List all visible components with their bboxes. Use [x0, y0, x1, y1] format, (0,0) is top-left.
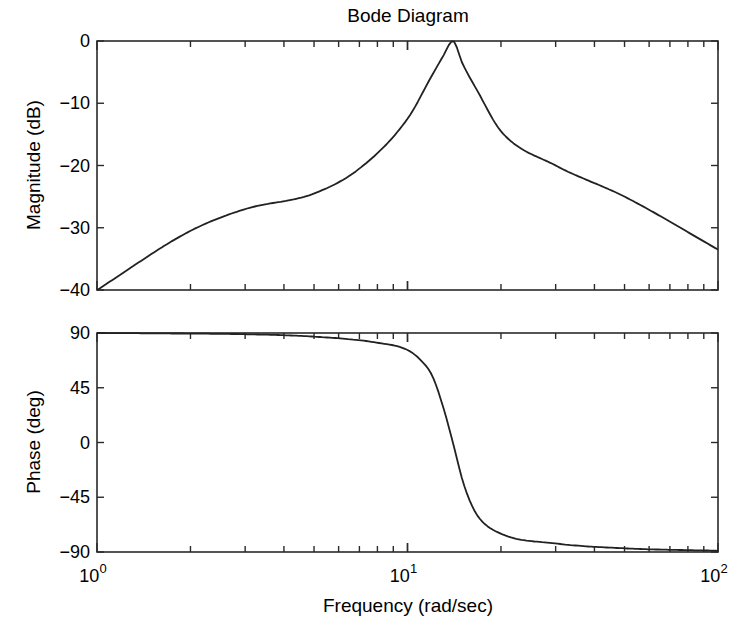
- magnitude-x-ticks: [97, 41, 718, 290]
- magnitude-plot-frame: [97, 41, 718, 290]
- x-tick-label: 100: [79, 561, 106, 586]
- magnitude-curve: [97, 42, 718, 291]
- y-tick-label: 0: [80, 433, 90, 453]
- y-tick-label: −40: [59, 280, 90, 300]
- phase-x-ticks: [97, 333, 718, 552]
- phase-plot: 90450−45−90 Phase (deg) 100101102 Freque…: [23, 323, 728, 616]
- x-tick-label: 101: [390, 561, 417, 586]
- y-tick-label: 45: [70, 378, 90, 398]
- y-tick-label: −30: [59, 218, 90, 238]
- phase-plot-frame: [97, 333, 718, 552]
- frequency-axis-label: Frequency (rad/sec): [323, 595, 493, 616]
- bode-diagram: Bode Diagram 0−10−20−30−40 Magnitude (dB…: [0, 0, 752, 628]
- y-tick-label: −45: [59, 487, 90, 507]
- phase-curve: [97, 333, 718, 551]
- y-tick-label: 0: [80, 31, 90, 51]
- y-tick-label: −90: [59, 542, 90, 562]
- phase-y-ticks: 90450−45−90: [59, 323, 718, 562]
- y-tick-label: −20: [59, 156, 90, 176]
- magnitude-y-axis-label: Magnitude (dB): [23, 100, 44, 230]
- magnitude-plot: 0−10−20−30−40 Magnitude (dB): [23, 31, 718, 300]
- phase-y-axis-label: Phase (deg): [23, 390, 44, 494]
- y-tick-label: 90: [70, 323, 90, 343]
- x-tick-label: 102: [700, 561, 727, 586]
- magnitude-y-ticks: 0−10−20−30−40: [59, 31, 718, 300]
- y-tick-label: −10: [59, 93, 90, 113]
- frequency-tick-labels: 100101102: [79, 561, 727, 586]
- chart-title: Bode Diagram: [347, 5, 468, 26]
